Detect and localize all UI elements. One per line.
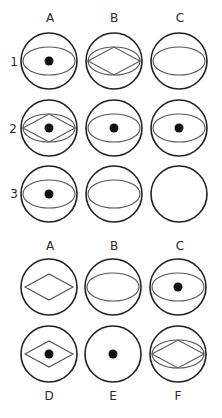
row-label-1: 1 bbox=[10, 55, 18, 69]
inner-ellipse bbox=[88, 47, 140, 75]
inner-ellipse bbox=[88, 180, 140, 208]
grid-cell-3b bbox=[86, 166, 142, 222]
column-label-c: C bbox=[176, 11, 184, 25]
answer-label-d: D bbox=[44, 389, 53, 403]
outer-circle bbox=[85, 259, 141, 315]
outer-circle bbox=[151, 166, 207, 222]
grid-cell-1b bbox=[86, 33, 142, 89]
column-label-b: B bbox=[110, 11, 118, 25]
center-dot bbox=[175, 124, 184, 133]
center-dot bbox=[45, 350, 54, 359]
grid-cell-2b bbox=[86, 100, 142, 156]
answer-option-c bbox=[150, 259, 206, 315]
center-dot bbox=[110, 124, 119, 133]
answer-option-a bbox=[21, 259, 77, 315]
inner-ellipse bbox=[87, 273, 139, 301]
grid-cell-3a bbox=[21, 166, 77, 222]
outer-circle bbox=[151, 33, 207, 89]
answer-label-f: F bbox=[175, 389, 182, 403]
answer-option-d bbox=[21, 326, 77, 382]
grid-cell-2c bbox=[151, 100, 207, 156]
outer-circle bbox=[86, 33, 142, 89]
inner-ellipse bbox=[152, 340, 204, 368]
answer-label-b: B bbox=[110, 239, 118, 253]
center-dot bbox=[109, 350, 118, 359]
answer-option-f bbox=[150, 326, 206, 382]
row-label-2: 2 bbox=[9, 122, 17, 136]
center-dot bbox=[45, 124, 54, 133]
answer-option-b bbox=[85, 259, 141, 315]
puzzle-grid bbox=[21, 33, 207, 222]
answer-label-a: A bbox=[46, 239, 55, 253]
grid-cell-1c bbox=[151, 33, 207, 89]
center-dot bbox=[45, 57, 54, 66]
puzzle-canvas: A B C 1 2 3 A B C D E F bbox=[0, 0, 222, 418]
outer-circle bbox=[150, 326, 206, 382]
diamond-shape bbox=[25, 274, 73, 300]
answer-label-e: E bbox=[109, 389, 117, 403]
column-label-a: A bbox=[46, 11, 55, 25]
center-dot bbox=[45, 190, 54, 199]
answer-option-e bbox=[85, 326, 141, 382]
grid-cell-3c bbox=[151, 166, 207, 222]
outer-circle bbox=[86, 166, 142, 222]
grid-cell-2a bbox=[21, 100, 77, 156]
outer-circle bbox=[21, 259, 77, 315]
answer-options bbox=[21, 259, 206, 382]
grid-cell-1a bbox=[21, 33, 77, 89]
center-dot bbox=[174, 283, 183, 292]
matrix-puzzle: A B C 1 2 3 A B C D E F bbox=[0, 0, 222, 418]
inner-ellipse bbox=[153, 47, 205, 75]
answer-label-c: C bbox=[176, 239, 184, 253]
row-label-3: 3 bbox=[10, 187, 18, 201]
